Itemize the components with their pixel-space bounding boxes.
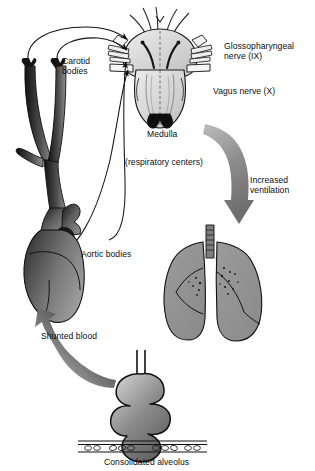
carotid-arteries-heart [16, 58, 84, 322]
label-glossopharyngeal-nerve: Glossopharyngeal nerve (IX) [224, 41, 294, 61]
label-respiratory-centers: (respiratory centers) [125, 157, 203, 167]
label-shunted-blood: Shunted blood [41, 331, 97, 341]
label-carotid-bodies: Carotid bodies [62, 56, 90, 76]
diagram-canvas: Carotid bodies Glossopharyngeal nerve (I… [0, 0, 315, 471]
diagram-illustration [0, 0, 315, 471]
label-consolidated-alveolus: Consolidated alveolus [104, 457, 189, 467]
efferent-ventilation-arrow [203, 124, 254, 224]
alveolus-cluster [111, 350, 171, 462]
label-increased-ventilation: Increased ventilation [250, 175, 289, 195]
label-vagus-nerve: Vagus nerve (X) [213, 86, 275, 96]
label-aortic-bodies: Aortic bodies [81, 249, 131, 259]
label-medulla: Medulla [147, 129, 177, 139]
lungs-structure [164, 225, 262, 341]
shunted-blood-arrow [35, 308, 116, 388]
